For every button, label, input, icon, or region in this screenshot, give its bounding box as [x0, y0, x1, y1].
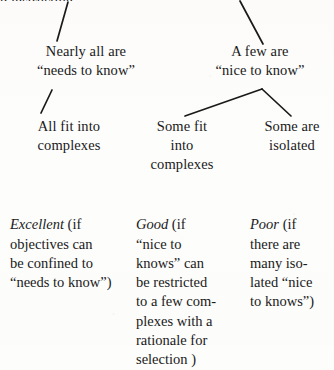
outcome-poor-grade: Poor — [250, 216, 279, 232]
node-some-fit-into-complexes: Some fit into complexes — [130, 117, 234, 174]
outcome-poor: Poor (if there are many iso- lated “nice… — [250, 196, 330, 312]
outcome-good-grade: Good — [136, 216, 168, 232]
node-a-few-are-nice-to-know: A few are “nice to know” — [196, 42, 324, 80]
outcome-good-detail: (if “nice to knows” can be restricted to… — [136, 216, 216, 367]
node-all-fit-into-complexes: All fit into complexes — [6, 117, 132, 155]
connector-root-to-nearly-all — [57, 2, 68, 41]
node-some-are-isolated: Some are isolated — [246, 117, 334, 155]
connector-a-few-to-some-fit — [185, 89, 262, 116]
connector-a-few-to-some-isolated — [262, 89, 291, 116]
node-nearly-all-are-needs-to-know: Nearly all are “needs to know” — [18, 42, 154, 80]
connector-nearly-all-to-all-fit — [41, 90, 52, 113]
clipped-header-text: p instruction. — [0, 0, 130, 1]
outcome-excellent: Excellent (if objectives can be confined… — [10, 196, 122, 292]
outcome-good: Good (if “nice to knows” can be restrict… — [136, 196, 236, 370]
connector-root-to-a-few — [240, 1, 263, 44]
outcome-excellent-grade: Excellent — [10, 216, 64, 232]
